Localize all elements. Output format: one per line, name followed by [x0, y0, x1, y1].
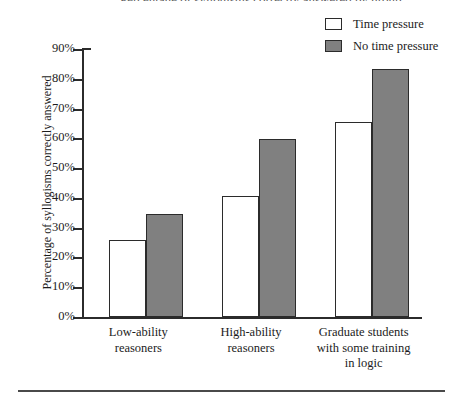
- bar: [259, 139, 296, 317]
- y-tick-label: 70%: [33, 101, 75, 115]
- legend-label-time-pressure: Time pressure: [353, 17, 424, 31]
- x-category-label: Graduate studentswith some trainingin lo…: [293, 325, 434, 372]
- y-tick-label: 40%: [33, 190, 75, 204]
- y-axis-title: Percentage of syllogisms correctly answe…: [40, 58, 55, 308]
- y-tick-label: 80%: [33, 71, 75, 85]
- legend-item-time-pressure: Time pressure: [325, 13, 460, 35]
- hollow-square-icon: [325, 18, 342, 30]
- x-category-label-line: Graduate students: [293, 325, 434, 341]
- y-tick-label: 50%: [33, 160, 75, 174]
- x-category-label-line: with some training: [293, 341, 434, 357]
- bar: [146, 214, 183, 317]
- bar: [109, 240, 146, 317]
- y-tick-label: 10%: [33, 279, 75, 293]
- y-tick-label: 60%: [33, 130, 75, 144]
- x-axis-line: [82, 317, 422, 319]
- bar: [222, 196, 259, 317]
- y-tick-label: 0%: [33, 309, 75, 323]
- x-category-label-line: in logic: [293, 356, 434, 372]
- clipped-chart-title: Percentage of syllogisms correctly answe…: [120, 0, 420, 1]
- bar-group: [222, 47, 296, 317]
- bar: [372, 69, 409, 317]
- y-tick-label: 20%: [33, 249, 75, 263]
- y-tick-label: 30%: [33, 220, 75, 234]
- bar-series-container: [84, 47, 422, 317]
- bar: [335, 122, 372, 317]
- bottom-divider: [18, 390, 445, 392]
- chart-figure: Percentage of syllogisms correctly answe…: [0, 0, 460, 411]
- bar-group: [335, 47, 409, 317]
- bar-group: [109, 47, 183, 317]
- plot-area: 0%10%20%30%40%50%60%70%80%90% Low-abilit…: [82, 47, 422, 319]
- y-tick-label: 90%: [33, 41, 75, 55]
